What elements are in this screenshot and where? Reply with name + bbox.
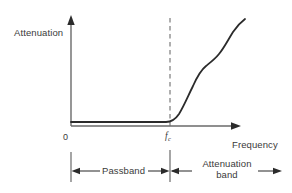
attenuation-band-right-arrowhead — [273, 168, 282, 174]
passband-left-arrowhead — [72, 168, 81, 174]
attenuation-curve — [71, 19, 245, 122]
y-axis-label: Attenuation — [14, 27, 63, 38]
attenuation-band-label-line1: Attenuation — [202, 158, 251, 169]
y-axis-arrowhead — [67, 15, 74, 25]
cutoff-frequency-subscript: c — [168, 135, 171, 142]
passband-right-arrowhead — [161, 168, 170, 174]
axes-group — [67, 15, 241, 130]
attenuation-vs-frequency-figure: Attenuation Frequency 0 fc Passband Atte… — [0, 0, 292, 193]
passband-label: Passband — [102, 165, 145, 176]
attenuation-band-label-line2: band — [216, 169, 238, 180]
x-axis-arrowhead — [231, 122, 241, 129]
origin-label: 0 — [63, 132, 68, 143]
attenuation-band-left-arrowhead — [171, 168, 180, 174]
x-axis-label: Frequency — [232, 139, 278, 150]
cutoff-frequency-label: fc — [165, 131, 171, 142]
attenuation-band-label: Attenuationband — [196, 158, 258, 180]
